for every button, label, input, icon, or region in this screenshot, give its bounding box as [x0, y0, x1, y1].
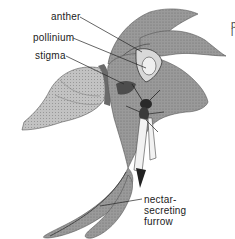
label-nectar-line2: secreting: [144, 205, 186, 216]
ovary: [22, 67, 106, 130]
label-pollinium: pollinium: [33, 32, 74, 43]
label-nectar-furrow: nectar- secreting furrow: [144, 194, 186, 227]
label-anther: anther: [51, 11, 81, 22]
label-stigma: stigma: [35, 50, 66, 61]
cropped-text-fragment: p i: [231, 21, 235, 37]
label-nectar-line3: furrow: [144, 216, 186, 227]
cropped-char-2: i: [231, 29, 235, 37]
label-nectar-line1: nectar-: [144, 194, 186, 205]
